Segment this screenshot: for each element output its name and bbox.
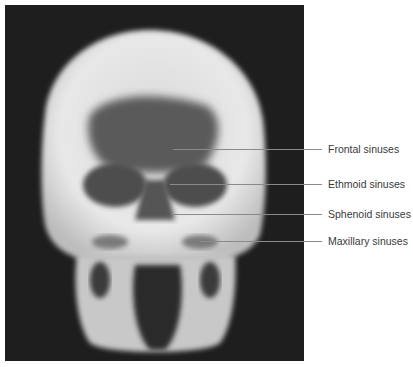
maxillary-sinuses-label: Maxillary sinuses (328, 235, 408, 247)
sphenoid-sinuses-leader-line (172, 214, 322, 215)
ethmoid-sinuses-leader-line (170, 184, 322, 185)
maxillary-sinuses-leader-line (200, 241, 322, 242)
skull-xray-illustration (5, 5, 304, 361)
frontal-sinuses-label: Frontal sinuses (328, 143, 399, 155)
frontal-sinuses-leader-line (173, 149, 322, 150)
ethmoid-sinuses-label: Ethmoid sinuses (328, 178, 405, 190)
sphenoid-sinuses-label: Sphenoid sinuses (328, 208, 411, 220)
skull-xray-image (5, 5, 304, 361)
